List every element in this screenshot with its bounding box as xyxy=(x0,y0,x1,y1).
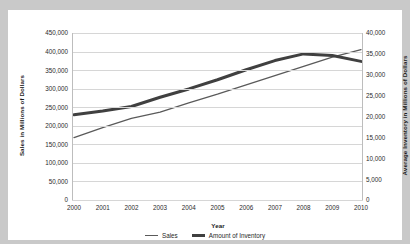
y-axis-right-tick-label: 0 xyxy=(366,196,410,203)
y-axis-left-tick-label: 150,000 xyxy=(24,141,68,148)
x-axis-tick-label: 2000 xyxy=(59,204,89,211)
y-axis-right-tick-label: 5,000 xyxy=(366,176,410,183)
plot-area xyxy=(72,33,363,200)
chart-legend: SalesAmount of Inventory xyxy=(8,232,402,239)
x-axis-tick-label: 2006 xyxy=(231,204,261,211)
x-axis-tick-label: 2004 xyxy=(174,204,204,211)
x-axis-tick-label: 2007 xyxy=(260,204,290,211)
gridline xyxy=(72,163,363,164)
y-axis-right-tick-label: 35,000 xyxy=(366,50,410,57)
x-axis-tick-label: 2008 xyxy=(289,204,319,211)
legend-item: Amount of Inventory xyxy=(192,232,265,239)
gridline xyxy=(72,107,363,108)
y-axis-right-tick-label: 20,000 xyxy=(366,113,410,120)
x-axis-tick-label: 2005 xyxy=(203,204,233,211)
gridline xyxy=(72,52,363,53)
y-axis-left-tick-label: 300,000 xyxy=(24,85,68,92)
y-axis-left-tick-label: 350,000 xyxy=(24,67,68,74)
screenshot-frame: Sales in Millions of Dollars Average Inv… xyxy=(0,0,410,244)
y-axis-left-tick-label: 200,000 xyxy=(24,122,68,129)
x-axis-tick-label: 2009 xyxy=(317,204,347,211)
y-axis-right-tick-label: 15,000 xyxy=(366,134,410,141)
x-axis-tick-label: 2001 xyxy=(88,204,118,211)
y-axis-left-tick-label: 400,000 xyxy=(24,48,68,55)
plot-right-border xyxy=(362,33,363,200)
chart-card: Sales in Millions of Dollars Average Inv… xyxy=(8,10,402,240)
series-line xyxy=(74,50,361,138)
y-axis-left-tick-label: 0 xyxy=(24,196,68,203)
legend-item: Sales xyxy=(145,232,178,239)
y-axis-left-title: Sales in Millions of Dollars xyxy=(18,56,25,176)
x-axis-tick-label: 2010 xyxy=(346,204,376,211)
y-axis-right-tick-label: 10,000 xyxy=(366,155,410,162)
y-axis-left-tick-label: 250,000 xyxy=(24,104,68,111)
y-axis-left-tick-label: 450,000 xyxy=(24,29,68,36)
legend-label: Amount of Inventory xyxy=(209,232,265,239)
plot-left-border xyxy=(72,33,73,200)
gridline xyxy=(72,144,363,145)
y-axis-right-tick-label: 25,000 xyxy=(366,92,410,99)
series-lines xyxy=(72,33,363,200)
x-axis-tick-label: 2003 xyxy=(145,204,175,211)
x-axis-title: Year xyxy=(68,222,368,229)
x-axis-tick-label: 2002 xyxy=(116,204,146,211)
legend-label: Sales xyxy=(162,232,178,239)
gridline xyxy=(72,200,363,201)
y-axis-left-tick-label: 50,000 xyxy=(24,178,68,185)
gridline xyxy=(72,33,363,34)
gridline xyxy=(72,126,363,127)
y-axis-right-tick-label: 30,000 xyxy=(366,71,410,78)
y-axis-right-tick-label: 40,000 xyxy=(366,29,410,36)
series-line xyxy=(74,54,361,115)
gridline xyxy=(72,70,363,71)
gridline xyxy=(72,181,363,182)
gridline xyxy=(72,89,363,90)
legend-swatch-icon xyxy=(192,234,205,237)
y-axis-left-tick-label: 100,000 xyxy=(24,159,68,166)
legend-swatch-icon xyxy=(145,235,158,236)
